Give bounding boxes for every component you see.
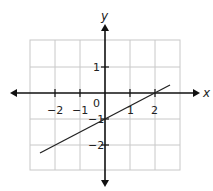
x-tick-label: −1: [72, 104, 88, 117]
y-axis-up-arrow-icon: [101, 24, 109, 31]
y-axis-down-arrow-icon: [101, 180, 109, 187]
x-tick-label: 2: [151, 104, 158, 117]
x-axis-left-arrow-icon: [10, 89, 17, 97]
y-axis-label: y: [100, 9, 109, 23]
y-tick-label: −2: [88, 139, 104, 152]
coordinate-plane: y x −2 −1 1 2 0 1 −1 −2: [0, 0, 213, 191]
x-tick-label: −2: [47, 104, 63, 117]
x-axis-right-arrow-icon: [193, 89, 200, 97]
origin-label: 0: [93, 97, 100, 110]
x-tick-label: 1: [127, 104, 134, 117]
y-tick-label: 1: [93, 61, 100, 74]
x-axis-label: x: [202, 86, 211, 100]
y-tick-label: −1: [88, 113, 104, 126]
